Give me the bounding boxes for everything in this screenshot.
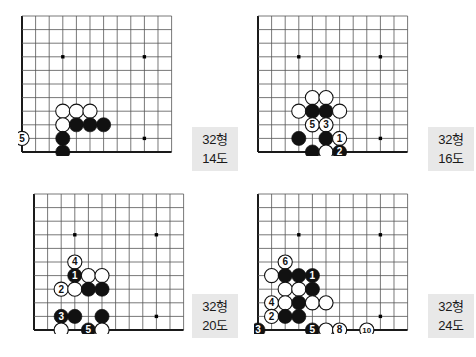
stone-white: [292, 282, 306, 296]
stone-white: [319, 296, 333, 310]
stone-black: [97, 118, 111, 132]
board-grid: 61423581079: [254, 190, 412, 334]
caption-form: 32형: [428, 127, 474, 149]
stone-white: [292, 104, 306, 118]
move-number: 6: [282, 256, 288, 267]
move-number: 3: [323, 119, 329, 130]
board-grid: 53124: [254, 12, 412, 156]
stone-white: [95, 323, 109, 334]
stone-black: [292, 296, 306, 310]
stone-black-move-2: 2: [333, 145, 347, 156]
move-number: 4: [72, 256, 78, 267]
stone-black-move-1: 1: [68, 269, 82, 283]
go-diagram-page: 51432531244123561423581079 32형14도32형16도3…: [0, 0, 476, 357]
stone-black: [319, 104, 333, 118]
stone-white: [56, 118, 70, 132]
stone-black-move-5: 5: [81, 323, 95, 334]
stone-black: [278, 269, 292, 283]
move-number: 2: [337, 146, 343, 156]
move-number: 5: [19, 133, 25, 144]
move-number: 5: [86, 324, 92, 334]
stone-black: [305, 104, 319, 118]
caption-number: 16도: [428, 149, 474, 171]
stone-black-move-3: 3: [254, 323, 265, 334]
stone-white-move-2: 2: [54, 282, 68, 296]
move-number: 10: [362, 326, 371, 334]
stone-white: [265, 269, 279, 283]
caption-number: 20도: [192, 316, 238, 338]
caption-diagram-16: 32형16도: [428, 127, 474, 171]
stone-white: [278, 296, 292, 310]
move-number: 5: [310, 119, 316, 130]
stone-white: [319, 145, 333, 156]
stone-white-move-10: 10: [360, 323, 374, 334]
move-number: 2: [58, 284, 64, 295]
stone-white: [81, 269, 95, 283]
stone-white: [56, 104, 70, 118]
move-number: 1: [310, 270, 316, 281]
stone-white: [333, 104, 347, 118]
stone-black: [95, 309, 109, 323]
stone-white: [305, 296, 319, 310]
stone-white-move-1: 1: [333, 131, 347, 145]
move-number: 8: [337, 324, 343, 334]
move-number: 4: [269, 297, 275, 308]
stone-black: [305, 145, 319, 156]
stone-black: [81, 282, 95, 296]
stone-black: [292, 269, 306, 283]
stone-black: [56, 145, 70, 156]
caption-form: 32형: [428, 294, 474, 316]
stone-black-move-1: 1: [305, 269, 319, 283]
stone-white: [83, 104, 97, 118]
stone-black: [69, 118, 83, 132]
caption-diagram-24: 32형24도: [428, 294, 474, 338]
stone-white-move-3: 3: [319, 118, 333, 132]
stone-white-move-4: 4: [265, 296, 279, 310]
stone-white-move-2: 2: [265, 309, 279, 323]
move-number: 1: [72, 270, 78, 281]
stone-white-move-6: 6: [278, 255, 292, 269]
stone-black: [292, 309, 306, 323]
stone-white: [54, 323, 68, 334]
stone-black-move-5: 5: [305, 323, 319, 334]
caption-diagram-20: 32형20도: [192, 294, 238, 338]
caption-diagram-14: 32형14도: [192, 127, 238, 171]
board-grid: 51432: [18, 12, 176, 156]
caption-number: 24도: [428, 316, 474, 338]
stone-black: [292, 131, 306, 145]
stone-black: [83, 118, 97, 132]
move-number: 3: [255, 324, 261, 334]
stone-white: [69, 104, 83, 118]
move-number: 1: [337, 133, 343, 144]
stone-black-move-3: 3: [54, 309, 68, 323]
stone-black: [305, 282, 319, 296]
board-grid: 41235: [30, 190, 188, 334]
stone-white-move-4: 4: [68, 255, 82, 269]
stone-black: [95, 282, 109, 296]
caption-number: 14도: [192, 149, 238, 171]
move-number: 5: [310, 324, 316, 334]
caption-form: 32형: [192, 294, 238, 316]
stone-white: [305, 91, 319, 105]
move-number: 3: [58, 311, 64, 322]
stone-black: [319, 131, 333, 145]
stone-white-move-5: 5: [18, 131, 29, 145]
stone-white: [319, 91, 333, 105]
stone-white: [319, 323, 333, 334]
stone-white: [68, 282, 82, 296]
caption-form: 32형: [192, 127, 238, 149]
move-number: 2: [269, 311, 275, 322]
stone-white: [278, 282, 292, 296]
stone-black: [278, 309, 292, 323]
stone-white: [95, 269, 109, 283]
stone-white-move-5: 5: [305, 118, 319, 132]
stone-black: [68, 309, 82, 323]
stone-black: [56, 131, 70, 145]
stone-white-move-8: 8: [333, 323, 347, 334]
